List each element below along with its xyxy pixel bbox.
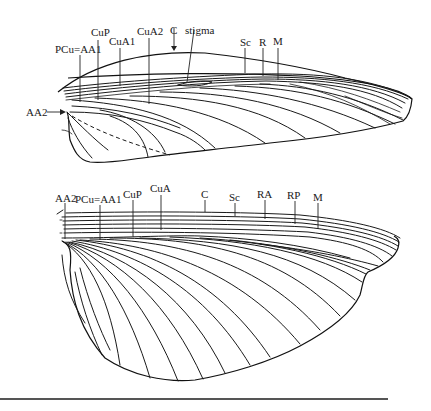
- label-sc: Sc: [240, 36, 251, 48]
- wing-venation-figure: PCu=AA1 CuP CuA1 CuA2 C stigma Sc R M AA…: [0, 0, 431, 411]
- label-aa2: AA2: [26, 106, 47, 118]
- label-ra: RA: [257, 188, 272, 200]
- hindwing: AA2 PCu=AA1 CuP CuA C Sc RA RP M: [55, 182, 400, 381]
- label-cup: CuP: [91, 26, 110, 38]
- label-cua1: CuA1: [109, 35, 135, 47]
- label-c: C: [170, 24, 177, 36]
- label-sc: Sc: [229, 191, 240, 203]
- label-m: M: [313, 191, 323, 203]
- label-cup: CuP: [123, 188, 142, 200]
- label-c: C: [201, 188, 208, 200]
- label-pcu-aa1: PCu=AA1: [75, 193, 122, 205]
- label-m: M: [273, 35, 283, 47]
- label-stigma: stigma: [185, 24, 214, 36]
- label-cua2: CuA2: [137, 25, 163, 37]
- label-r: R: [259, 36, 267, 48]
- label-aa2: AA2: [55, 192, 76, 204]
- forewing: PCu=AA1 CuP CuA1 CuA2 C stigma Sc R M AA…: [26, 24, 412, 163]
- label-rp: RP: [287, 189, 300, 201]
- label-cua: CuA: [150, 182, 171, 194]
- label-pcu-aa1: PCu=AA1: [55, 43, 102, 55]
- forewing-outline: [67, 74, 412, 163]
